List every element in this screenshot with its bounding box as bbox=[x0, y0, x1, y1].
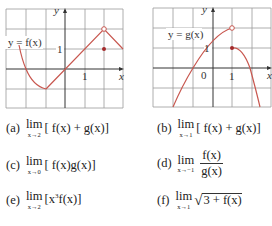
fraction: f(x) g(x) bbox=[200, 149, 223, 178]
y-tick-1: 1 bbox=[204, 42, 210, 54]
limit-operator: lim x→2 bbox=[26, 190, 43, 210]
denominator: g(x) bbox=[201, 164, 222, 178]
graph-g: y x 1 1 0 y = g(x) bbox=[136, 0, 272, 112]
limit-operator: lim x→2 bbox=[26, 118, 43, 138]
x-axis-label: x bbox=[266, 69, 272, 81]
problem-d: (d) lim x→−1 f(x) g(x) bbox=[157, 149, 223, 178]
limit-operator: lim x→1 bbox=[176, 190, 193, 210]
filled-point-icon bbox=[230, 46, 234, 50]
f-label: y = f(x) bbox=[8, 36, 42, 49]
limit-expression: [ f(x)g(x)] bbox=[45, 158, 96, 173]
origin-label: 0 bbox=[201, 69, 207, 81]
open-circle-icon bbox=[102, 27, 107, 32]
square-root: √ 3 + f(x) bbox=[194, 193, 242, 208]
limit-expression: [ f(x) + g(x)] bbox=[45, 121, 109, 136]
x-tick-1: 1 bbox=[82, 70, 88, 82]
y-axis-label: y bbox=[201, 3, 207, 15]
problem-label: (f) bbox=[157, 193, 170, 208]
y-tick-1: 1 bbox=[57, 43, 63, 55]
problem-f: (f) lim x→1 √ 3 + f(x) bbox=[157, 190, 242, 210]
x-tick-1: 1 bbox=[229, 70, 235, 82]
radical-icon: √ bbox=[194, 193, 202, 208]
problem-c: (c) lim x→0 [ f(x)g(x)] bbox=[6, 155, 96, 175]
axes bbox=[153, 9, 270, 107]
grid bbox=[153, 8, 271, 107]
limit-expression: [x3f(x)] bbox=[45, 192, 82, 207]
g-label: y = g(x) bbox=[168, 28, 204, 41]
limit-operator: lim x→−1 bbox=[178, 154, 195, 174]
limit-expression: [ f(x) + g(x)] bbox=[196, 121, 260, 136]
problem-label: (b) bbox=[157, 121, 172, 136]
y-axis-label: y bbox=[53, 4, 59, 16]
g-right-branch bbox=[232, 48, 260, 107]
graph-f: y x 1 1 y = f(x) bbox=[0, 0, 136, 112]
x-axis-label: x bbox=[118, 70, 124, 82]
problem-label: (a) bbox=[6, 121, 20, 136]
filled-point-icon bbox=[102, 47, 106, 51]
problem-label: (c) bbox=[6, 158, 20, 173]
f-curve-left bbox=[19, 45, 46, 89]
problem-b: (b) lim x→1 [ f(x) + g(x)] bbox=[157, 118, 261, 138]
problem-label: (e) bbox=[6, 193, 20, 208]
problem-a: (a) lim x→2 [ f(x) + g(x)] bbox=[6, 118, 109, 138]
problem-label: (d) bbox=[157, 156, 172, 171]
limit-operator: lim x→0 bbox=[26, 155, 43, 175]
graph-f-svg: y x 1 1 y = f(x) bbox=[0, 0, 136, 112]
axes bbox=[6, 10, 122, 108]
limit-operator: lim x→1 bbox=[178, 118, 195, 138]
problem-e: (e) lim x→2 [x3f(x)] bbox=[6, 190, 81, 210]
open-circle-icon bbox=[230, 26, 235, 31]
numerator: f(x) bbox=[200, 149, 223, 164]
radicand: 3 + f(x) bbox=[202, 193, 241, 208]
graph-g-svg: y x 1 1 0 y = g(x) bbox=[136, 0, 272, 112]
